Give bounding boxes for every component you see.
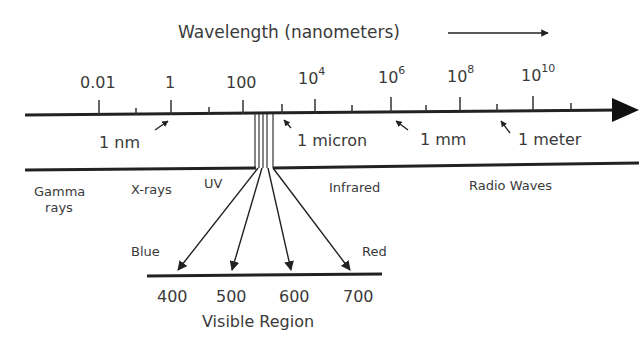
label-blue: Blue: [131, 244, 160, 259]
region-radio-waves: Radio Waves: [469, 178, 552, 194]
axis-title: Wavelength (nanometers): [178, 22, 400, 42]
visible-tick-600: 600: [279, 287, 310, 306]
region-divider-left: [25, 168, 256, 170]
region-gamma-rays: Gamma rays: [34, 184, 84, 216]
visible-region-label: Visible Region: [202, 312, 314, 331]
label-red: Red: [362, 244, 387, 259]
visible-tick-400: 400: [157, 287, 188, 306]
tick-label-1e4: 104: [298, 68, 325, 88]
visible-tick-700: 700: [343, 287, 374, 306]
visible-band-lines: [255, 114, 273, 168]
visible-scale-line: [147, 274, 382, 276]
tick-label-1: 1: [165, 73, 175, 92]
tick-label-1e8: 108: [447, 66, 474, 86]
tick-label-1e10: 1010: [521, 65, 555, 85]
tick-label-1e6: 106: [378, 67, 405, 87]
tick-label-100: 100: [226, 73, 257, 92]
visible-tick-500: 500: [216, 287, 247, 306]
tick-label-0.01: 0.01: [80, 73, 116, 92]
diagram-graphics: [0, 0, 639, 344]
marker-1mm: 1 mm: [420, 130, 466, 149]
axis-arrowhead: [612, 98, 639, 122]
region-uv: UV: [204, 176, 222, 192]
region-divider-right: [273, 163, 639, 168]
marker-1nm: 1 nm: [99, 133, 140, 152]
marker-1micron: 1 micron: [297, 131, 367, 150]
marker-1meter: 1 meter: [518, 130, 581, 149]
region-xrays: X-rays: [131, 182, 172, 198]
region-infrared: Infrared: [329, 180, 380, 196]
